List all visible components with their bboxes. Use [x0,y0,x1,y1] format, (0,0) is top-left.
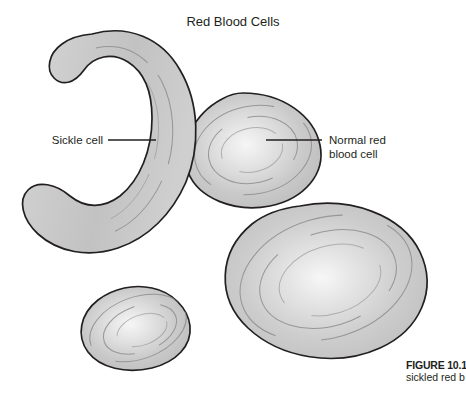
large-cell-membrane [225,203,427,358]
cell-normal-red-blood-cell-upper [185,93,321,208]
figure-container: Red Blood Cells [0,0,466,395]
red-blood-cells-diagram: Red Blood Cells [0,0,466,395]
figure-caption-text: sickled red b [406,371,466,383]
sickle-cell-membrane [23,31,196,253]
cell-sickle-cell [23,31,196,253]
figure-number: FIGURE 10.1 [406,359,466,371]
figure-caption: FIGURE 10.1 sickled red b [406,359,466,384]
sickle-cell-label: Sickle cell [52,134,103,146]
cell-normal-red-blood-cell-small [80,282,195,374]
cell-normal-red-blood-cell-large [224,195,427,361]
callout-sickle-cell: Sickle cell [52,134,156,146]
upper-cell-membrane [185,93,321,208]
normal-cell-label-line1: Normal red [329,134,386,146]
page-title: Red Blood Cells [186,14,280,29]
normal-cell-label-line2: blood cell [329,148,378,160]
